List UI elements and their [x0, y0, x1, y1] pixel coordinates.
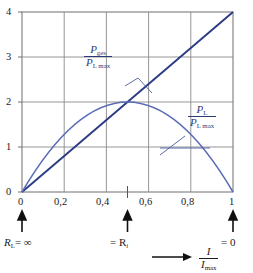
x-axis-title: I Imax: [199, 246, 218, 270]
y-tick-label-0: 0: [6, 186, 11, 197]
curve-label-p-ges: Pges PL max: [84, 44, 112, 68]
x-axis-title-numerator: I: [199, 246, 218, 258]
x-tick-label-0.2: 0,2: [54, 196, 67, 207]
power-ratio-chart: [0, 0, 253, 273]
y-tick-label-4: 4: [6, 6, 11, 17]
x-tick-label-1: 1: [229, 196, 234, 207]
x-tick-label-0.4: 0,4: [96, 196, 109, 207]
y-tick-label-1: 1: [6, 141, 11, 152]
x-tick-label-0: 0: [18, 196, 23, 207]
y-tick-marks: [18, 12, 22, 192]
arrow-marker-right: [229, 211, 237, 232]
x-axis-title-denominator: Imax: [199, 258, 218, 271]
x-tick-label-0.8: 0,8: [181, 196, 194, 207]
arrow-marker-left: [18, 211, 26, 232]
y-tick-label-2: 2: [6, 96, 11, 107]
curve-label-p-ges-denominator: PL max: [84, 56, 112, 69]
curve-label-p-l-denominator: PL max: [188, 116, 216, 129]
x-axis-label-arrow: [152, 253, 192, 261]
curve-label-p-ges-numerator: Pges: [84, 44, 112, 56]
marker-caption-mid: = Ri: [110, 236, 128, 249]
marker-caption-right: = 0: [221, 236, 235, 248]
y-tick-label-3: 3: [6, 51, 11, 62]
axis-arrow-markers: [18, 211, 237, 232]
x-tick-label-0.6: 0,6: [139, 196, 152, 207]
arrow-marker-mid: [124, 211, 132, 232]
marker-caption-left: RL= ∞: [4, 236, 32, 249]
curve-label-p-l: PL PL max: [188, 104, 216, 128]
curve-label-p-l-numerator: PL: [188, 104, 216, 116]
